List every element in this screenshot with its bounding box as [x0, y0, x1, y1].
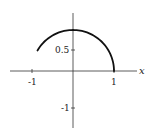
x-axis-label: x [139, 65, 145, 76]
x-tick-label-neg1: -1 [28, 77, 37, 87]
x-tick-label-1: 1 [111, 77, 117, 87]
arc-curve [37, 30, 114, 71]
chart-plot: -1 1 0.5 -1 x [0, 0, 153, 133]
y-tick-label-0.5: 0.5 [55, 45, 70, 55]
y-tick-label-neg1: -1 [61, 103, 70, 113]
